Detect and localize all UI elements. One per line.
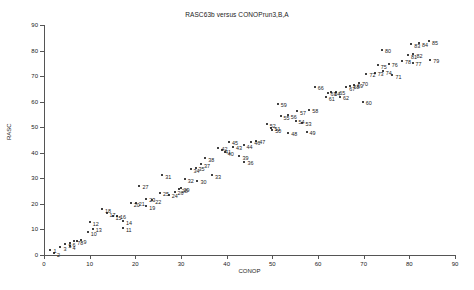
- x-axis-tick: [135, 255, 136, 259]
- data-point: [122, 220, 124, 222]
- data-point: [255, 140, 257, 142]
- data-point: [76, 240, 78, 242]
- data-point: [418, 42, 420, 44]
- data-point-label: 59: [281, 102, 287, 108]
- data-point-label: 44: [247, 144, 253, 150]
- data-point: [145, 198, 147, 200]
- data-point-label: 62: [343, 95, 349, 101]
- x-axis-label: CONOP: [44, 268, 455, 274]
- data-point-label: 3: [63, 246, 66, 252]
- data-point-label: 80: [385, 48, 391, 54]
- data-point-label: 48: [291, 131, 297, 137]
- y-axis-tick-label: 20: [31, 201, 38, 207]
- data-point-label: 54: [299, 119, 305, 125]
- data-point: [280, 115, 282, 117]
- data-point-label: 56: [291, 114, 297, 120]
- data-point: [428, 40, 430, 42]
- data-point-label: 60: [366, 100, 372, 106]
- data-point: [69, 242, 71, 244]
- data-point-label: 66: [318, 85, 324, 91]
- data-point-label: 49: [310, 130, 316, 136]
- data-point: [401, 60, 403, 62]
- data-point-label: 58: [312, 108, 318, 114]
- x-axis-tick-label: 60: [315, 261, 322, 267]
- y-axis-tick-label: 90: [31, 22, 38, 28]
- data-point: [358, 82, 360, 84]
- data-point: [362, 101, 364, 103]
- data-point: [184, 178, 186, 180]
- data-point: [64, 243, 66, 245]
- y-axis-tick-label: 40: [31, 150, 38, 156]
- data-point: [238, 155, 240, 157]
- data-point: [204, 157, 206, 159]
- x-axis-tick: [44, 255, 45, 259]
- data-point-label: 84: [422, 42, 428, 48]
- data-point-label: 12: [93, 221, 99, 227]
- y-axis-tick: [40, 127, 44, 128]
- data-point: [266, 123, 268, 125]
- data-point: [330, 91, 332, 93]
- data-point-label: 30: [200, 179, 206, 185]
- data-point: [314, 86, 316, 88]
- data-point: [217, 147, 219, 149]
- data-point: [161, 174, 163, 176]
- data-point-label: 6: [73, 242, 76, 248]
- data-point-label: 78: [405, 59, 411, 65]
- scatter-chart: RASC63b versus CONOPrun3,B,A RASC CONOP …: [0, 0, 474, 290]
- data-point-label: 36: [247, 160, 253, 166]
- data-point-label: 16: [120, 214, 126, 220]
- x-axis-tick: [318, 255, 319, 259]
- y-axis-tick-label: 0: [35, 252, 38, 258]
- y-axis-tick: [40, 25, 44, 26]
- data-point: [353, 84, 355, 86]
- data-point: [306, 131, 308, 133]
- data-point-label: 52: [270, 123, 276, 129]
- y-axis-tick: [40, 178, 44, 179]
- data-point: [277, 103, 279, 105]
- x-axis-tick-label: 80: [406, 261, 413, 267]
- data-point: [116, 215, 118, 217]
- data-point-label: 32: [188, 178, 194, 184]
- data-point-label: 25: [163, 191, 169, 197]
- y-axis-tick: [40, 76, 44, 77]
- data-point: [308, 109, 310, 111]
- x-axis-tick: [181, 255, 182, 259]
- y-axis-tick-label: 60: [31, 99, 38, 105]
- x-axis-tick-label: 20: [132, 261, 139, 267]
- data-point: [73, 240, 75, 242]
- x-axis-tick-label: 0: [42, 261, 45, 267]
- data-point: [412, 62, 414, 64]
- data-point: [196, 180, 198, 182]
- data-point: [130, 202, 132, 204]
- data-point: [374, 72, 376, 74]
- data-point-label: 76: [392, 62, 398, 68]
- x-axis-tick-label: 30: [178, 261, 185, 267]
- y-axis-tick-label: 50: [31, 124, 38, 130]
- data-point-label: 18: [105, 208, 111, 214]
- data-point: [412, 53, 414, 55]
- data-point: [377, 64, 379, 66]
- data-point: [180, 187, 182, 189]
- data-point-label: 85: [432, 40, 438, 46]
- data-point-label: 42: [221, 146, 227, 152]
- data-point-label: 47: [259, 139, 265, 145]
- x-axis-tick: [409, 255, 410, 259]
- data-point-label: 77: [416, 61, 422, 67]
- data-point-label: 21: [139, 201, 145, 207]
- x-axis-line: [44, 255, 456, 256]
- data-point-label: 33: [215, 174, 221, 180]
- data-point: [345, 86, 347, 88]
- data-point: [138, 185, 140, 187]
- data-point: [250, 141, 252, 143]
- x-axis-tick-label: 40: [223, 261, 230, 267]
- data-point-label: 74: [386, 70, 392, 76]
- data-point: [349, 85, 351, 87]
- data-point: [381, 49, 383, 51]
- y-axis-label: RASC: [6, 123, 12, 140]
- y-axis-tick: [40, 204, 44, 205]
- y-axis-tick: [40, 102, 44, 103]
- data-point-label: 2: [57, 252, 60, 258]
- data-point: [429, 59, 431, 61]
- x-axis-tick: [227, 255, 228, 259]
- data-point-label: 23: [149, 197, 155, 203]
